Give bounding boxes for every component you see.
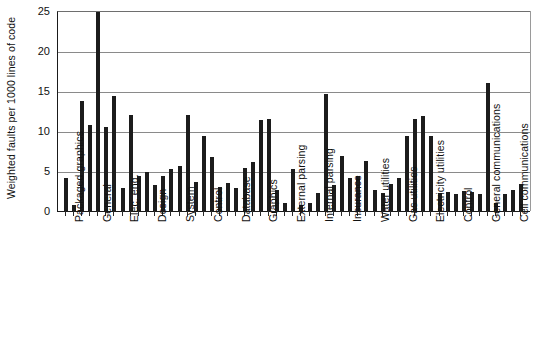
x-axis-tick	[203, 211, 204, 216]
x-axis-category-label: General	[101, 184, 113, 222]
y-axis-title-text: Weighted faults per 1000 lines of code	[5, 16, 17, 198]
x-axis-category-label: Gas utilities	[407, 166, 419, 222]
x-axis-tick	[122, 211, 123, 216]
gridline	[58, 52, 530, 53]
bar	[446, 192, 450, 211]
x-axis-tick	[479, 211, 480, 216]
bar	[234, 188, 238, 211]
x-axis-tick	[349, 211, 350, 216]
x-axis-tick	[422, 211, 423, 216]
x-axis-category-label: Graphics	[267, 179, 279, 222]
bar	[429, 136, 433, 211]
bar	[226, 183, 230, 211]
bar	[112, 96, 116, 211]
bar	[503, 194, 507, 211]
bar	[316, 193, 320, 211]
x-axis-category-label: Packaged graphics	[73, 131, 85, 222]
bar	[64, 178, 68, 211]
x-axis-category-label: External parsing	[295, 145, 307, 222]
y-axis-tick-label: 5	[22, 166, 50, 177]
gridline	[58, 92, 530, 93]
y-axis-tick-label: 10	[22, 126, 50, 137]
x-axis-tick	[317, 211, 318, 216]
y-axis-title: Weighted faults per 1000 lines of code	[0, 0, 22, 215]
x-axis-tick	[179, 211, 180, 216]
x-axis-tick	[455, 211, 456, 216]
bar	[364, 161, 368, 211]
bar	[511, 190, 515, 211]
bar	[454, 194, 458, 211]
x-axis-tick	[89, 211, 90, 216]
x-axis-category-label: Control	[212, 187, 224, 222]
x-axis-tick	[170, 211, 171, 216]
x-axis-tick	[447, 211, 448, 216]
x-axis-category-label: Electricity utilities	[434, 140, 446, 222]
x-axis-category-label: Water utilities	[379, 158, 391, 222]
bar	[96, 11, 100, 211]
x-axis-tick	[512, 211, 513, 216]
x-axis-category-label: Design	[156, 189, 168, 222]
bar-chart: Weighted faults per 1000 lines of code 0…	[0, 0, 538, 361]
x-axis-tick	[260, 211, 261, 216]
x-axis-tick	[365, 211, 366, 216]
x-axis-tick	[154, 211, 155, 216]
bar	[478, 194, 482, 211]
x-axis-tick	[65, 211, 66, 216]
x-axis-tick	[309, 211, 310, 216]
bar	[421, 116, 425, 211]
x-axis-tick	[113, 211, 114, 216]
x-axis-tick	[504, 211, 505, 216]
x-axis-tick	[146, 211, 147, 216]
bar	[373, 190, 377, 211]
x-axis-tick	[97, 211, 98, 216]
x-axis-category-label: General communications	[490, 104, 502, 222]
bar	[145, 172, 149, 211]
x-axis-tick	[430, 211, 431, 216]
y-axis-tick-label: 15	[22, 86, 50, 97]
bar	[340, 156, 344, 211]
bar	[397, 178, 401, 211]
x-axis-tick	[284, 211, 285, 216]
x-axis-category-label: Internal parsing	[323, 148, 335, 222]
bar	[169, 169, 173, 211]
x-axis-tick	[341, 211, 342, 216]
y-axis-tick-label: 25	[22, 6, 50, 17]
bar	[259, 120, 263, 211]
y-axis-tick-label: 0	[22, 206, 50, 217]
bar	[121, 188, 125, 211]
x-axis-category-label: Elec. eng.	[128, 174, 140, 222]
x-axis-tick	[374, 211, 375, 216]
x-axis-category-label: Cell communications	[518, 123, 530, 222]
x-axis-category-label: Database	[240, 176, 252, 222]
x-axis-tick	[227, 211, 228, 216]
x-axis-category-label: Insurance	[351, 175, 363, 222]
x-axis-tick	[398, 211, 399, 216]
y-axis-tick-label: 20	[22, 46, 50, 57]
x-axis-tick	[487, 211, 488, 216]
x-axis-category-label: System	[184, 186, 196, 222]
x-axis-tick	[292, 211, 293, 216]
bar	[178, 166, 182, 211]
bar	[88, 125, 92, 211]
x-axis-category-label: Control	[462, 187, 474, 222]
x-axis-tick	[235, 211, 236, 216]
bar	[202, 136, 206, 211]
